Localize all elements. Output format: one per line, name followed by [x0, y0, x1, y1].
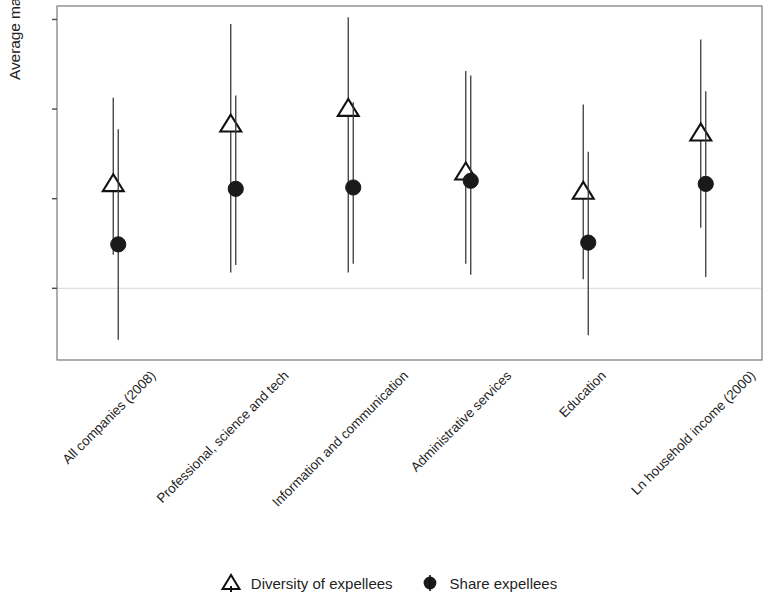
legend-label: Diversity of expellees [251, 575, 393, 592]
x-axis-tick-label: All companies (2008) [59, 368, 158, 467]
legend-entry: Share expellees [419, 572, 558, 594]
x-axis-tick-label: Administrative services [407, 368, 514, 475]
x-axis-tick-label: Education [557, 368, 609, 420]
x-axis-tick-label: Information and communication [269, 368, 411, 510]
chart-figure: Average marginal effect 0.00.20.40.6 All… [0, 0, 777, 609]
triangle-open-marker [220, 572, 242, 594]
legend-label: Share expellees [450, 575, 558, 592]
x-axis-tick-label: Professional, science and tech [154, 368, 292, 506]
x-axis-tick-labels: All companies (2008)Professional, scienc… [0, 0, 777, 609]
x-axis-tick-label: Ln household income (2000) [629, 368, 759, 498]
chart-legend: Diversity of expelleesShare expellees [0, 572, 777, 594]
legend-entry: Diversity of expellees [220, 572, 393, 594]
circle-filled-marker [419, 572, 441, 594]
